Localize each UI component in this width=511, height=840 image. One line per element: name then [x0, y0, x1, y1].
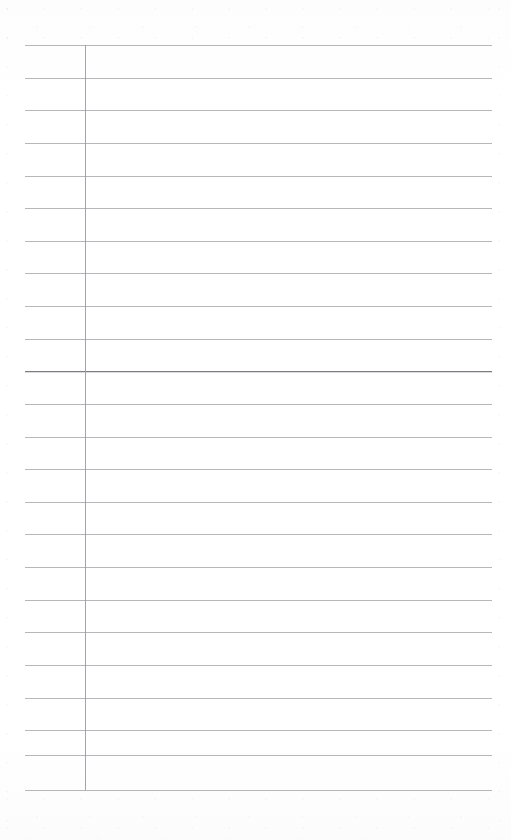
rule-line [25, 208, 492, 209]
rule-line [25, 698, 492, 699]
rule-line [25, 143, 492, 144]
rule-line [25, 176, 492, 177]
rule-line [25, 469, 492, 470]
rule-line [25, 306, 492, 307]
rule-line [25, 567, 492, 568]
rule-line [25, 437, 492, 438]
rule-line [25, 241, 492, 242]
rule-line [25, 755, 492, 756]
ruling-layer [0, 0, 511, 840]
left-margin-rule [85, 45, 86, 790]
rule-line [25, 665, 492, 666]
rule-line [25, 404, 492, 405]
rule-line [25, 110, 492, 111]
rule-line [25, 600, 492, 601]
rule-line [25, 502, 492, 503]
rule-line [25, 339, 492, 340]
lined-page [0, 0, 511, 840]
rule-line [25, 790, 492, 791]
rule-line [25, 534, 492, 535]
accent-rule-line [25, 371, 492, 372]
rule-line [25, 78, 492, 79]
rule-line [25, 273, 492, 274]
rule-line [25, 45, 492, 46]
rule-line [25, 632, 492, 633]
rule-line [25, 730, 492, 731]
